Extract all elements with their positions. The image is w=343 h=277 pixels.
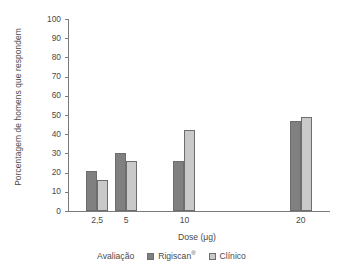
- plot-area: 0102030405060708090100 2,551020: [68, 19, 330, 212]
- y-axis-line: [68, 19, 69, 212]
- y-tick-label: 100: [35, 14, 61, 24]
- y-tick-mark: [65, 173, 68, 174]
- legend-item-clinico: Clínico: [209, 251, 246, 261]
- x-axis-title: Dose (μg): [64, 232, 330, 242]
- y-tick-label: 50: [35, 110, 61, 120]
- y-tick-mark: [65, 57, 68, 58]
- y-tick-mark: [65, 134, 68, 135]
- y-tick-mark: [65, 211, 68, 212]
- bar-clinico-5: [126, 161, 137, 211]
- y-tick-label: 40: [35, 129, 61, 139]
- bar-rigiscan-10: [173, 161, 184, 211]
- y-tick-label: 70: [35, 71, 61, 81]
- legend-item-rigiscan: Rigiscan®: [147, 251, 195, 261]
- bar-rigiscan-2,5: [86, 171, 97, 211]
- legend-label-rigiscan: Rigiscan®: [158, 251, 195, 261]
- x-tick-label-5: 5: [124, 215, 129, 225]
- y-tick-label: 20: [35, 167, 61, 177]
- legend-title: Avaliação: [97, 251, 134, 261]
- y-tick-label: 90: [35, 33, 61, 43]
- y-tick-label: 10: [35, 186, 61, 196]
- bar-rigiscan-5: [115, 153, 126, 211]
- x-axis-line: [68, 211, 330, 212]
- legend-label-clinico: Clínico: [220, 251, 246, 261]
- x-tick-label-2,5: 2,5: [91, 215, 103, 225]
- y-tick-mark: [65, 115, 68, 116]
- y-tick-mark: [65, 96, 68, 97]
- registered-mark-icon: ®: [191, 250, 195, 256]
- y-tick-label: 0: [35, 206, 61, 216]
- y-tick-label: 60: [35, 90, 61, 100]
- y-tick-mark: [65, 192, 68, 193]
- y-tick-mark: [65, 19, 68, 20]
- legend-swatch-rigiscan: [147, 253, 154, 260]
- bar-clinico-2,5: [97, 180, 108, 211]
- y-tick-label: 80: [35, 52, 61, 62]
- x-tick-label-10: 10: [180, 215, 190, 225]
- bar-clinico-20: [301, 117, 312, 211]
- y-axis-title: Porcentagem de homens que respondem: [13, 7, 23, 207]
- y-tick-mark: [65, 38, 68, 39]
- y-tick-mark: [65, 77, 68, 78]
- legend-swatch-clinico: [209, 253, 216, 260]
- x-tick-label-20: 20: [296, 215, 306, 225]
- bar-clinico-10: [184, 130, 195, 211]
- bar-rigiscan-20: [290, 121, 301, 211]
- y-tick-mark: [65, 153, 68, 154]
- bar-chart-figure: Porcentagem de homens que respondem 0102…: [0, 0, 343, 277]
- chart-legend: Avaliação Rigiscan® Clínico: [0, 251, 343, 261]
- y-tick-label: 30: [35, 148, 61, 158]
